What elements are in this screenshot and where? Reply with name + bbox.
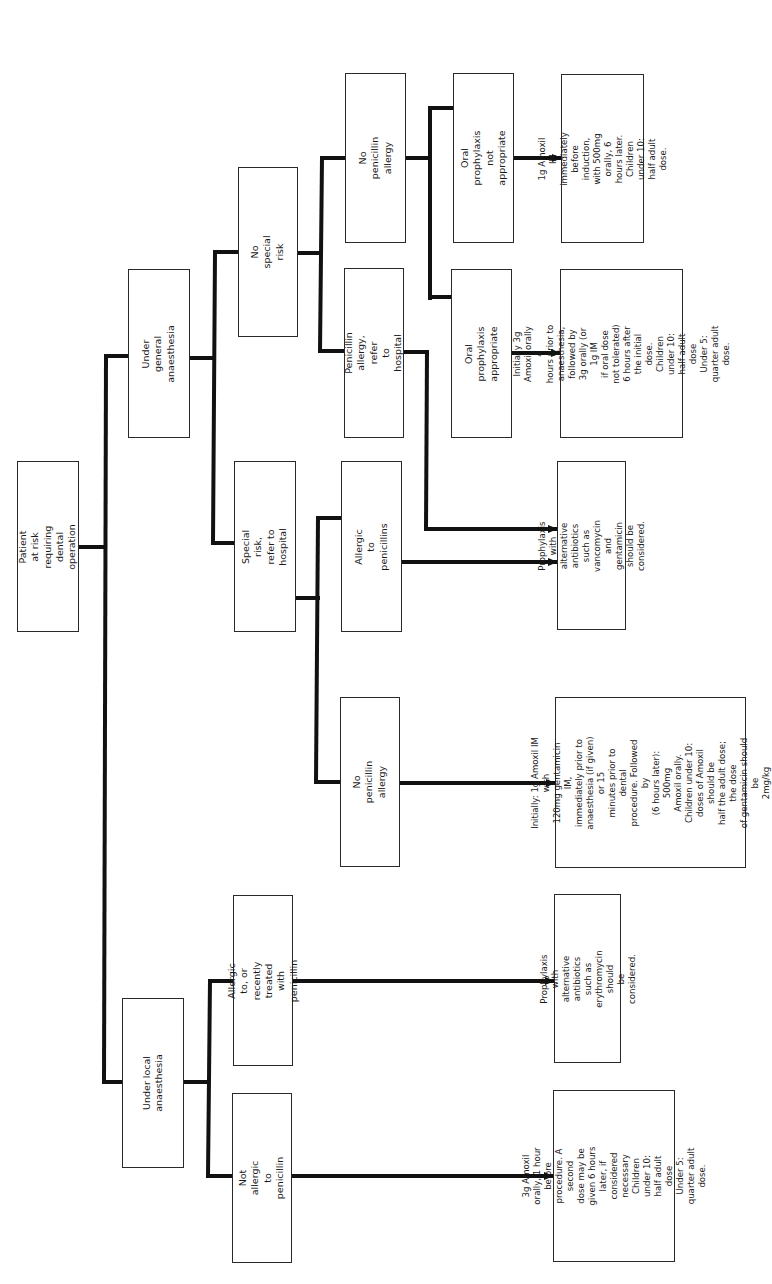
node-local-anaesthesia: Under local anaesthesia bbox=[122, 998, 184, 1168]
node-label: Allergic to, or recently treated with pe… bbox=[226, 959, 300, 1001]
outcome-text: 1g Amoxil IM immediately before inductio… bbox=[537, 132, 669, 186]
outcome-erythromycin: Prophylaxis with alternative antibiotics… bbox=[554, 894, 621, 1063]
node-label: Allergic to penicillins bbox=[353, 523, 390, 570]
node-label: Under local anaesthesia bbox=[141, 1054, 166, 1111]
node-no-special-risk: No special risk bbox=[238, 167, 298, 337]
node-local-not-allergic: Not allergic to penicillin bbox=[232, 1093, 292, 1263]
node-general-anaesthesia: Under general anaesthesia bbox=[128, 269, 190, 438]
outcome-gentamicin: Initially: 1g Amoxil IM with 120mg genta… bbox=[555, 697, 746, 868]
node-root: Patient at risk requiring dental operati… bbox=[17, 461, 79, 632]
outcome-vancomycin: Prophylaxis with alternative antibiotics… bbox=[557, 461, 626, 630]
node-label: Oral prophylaxis not appropriate bbox=[459, 130, 508, 185]
outcome-text: Prophylaxis with alternative antibiotics… bbox=[537, 520, 647, 572]
outcome-text: 3g Amoxil orally, 1 hour before procedur… bbox=[521, 1146, 708, 1206]
node-label: Oral prophylaxis appropriate bbox=[463, 326, 500, 381]
node-oral-appropriate: Oral prophylaxis appropriate bbox=[451, 269, 512, 438]
outcome-text: Initially: 1g Amoxil IM with 120mg genta… bbox=[530, 735, 772, 830]
node-label: Special risk, refer to hospital bbox=[240, 528, 289, 566]
node-label: No penicillin allergy bbox=[357, 137, 394, 179]
outcome-text: Prophylaxis with alternative antibiotics… bbox=[538, 950, 637, 1007]
node-label: Under general anaesthesia bbox=[140, 325, 177, 382]
node-special-risk: Special risk, refer to hospital bbox=[234, 461, 296, 632]
node-local-allergic: Allergic to, or recently treated with pe… bbox=[233, 895, 293, 1066]
node-special-no-penicillin-allergy: No penicillin allergy bbox=[340, 697, 400, 867]
node-label: Patient at risk requiring dental operati… bbox=[17, 524, 79, 570]
outcome-text: Initially 3g Amoxil orally 4 hours prior… bbox=[512, 323, 732, 384]
node-oral-not-appropriate: Oral prophylaxis not appropriate bbox=[453, 73, 514, 243]
outcome-im-amoxil: 1g Amoxil IM immediately before inductio… bbox=[561, 74, 644, 243]
node-label: Penicillin allergy, refer to hospital bbox=[343, 332, 405, 374]
outcome-local-amoxil: 3g Amoxil orally, 1 hour before procedur… bbox=[553, 1090, 675, 1262]
node-general-no-penicillin-allergy: No penicillin allergy bbox=[345, 73, 406, 243]
node-general-penicillin-allergy: Penicillin allergy, refer to hospital bbox=[344, 268, 404, 438]
node-label: No penicillin allergy bbox=[351, 761, 388, 803]
outcome-oral-amoxil: Initially 3g Amoxil orally 4 hours prior… bbox=[560, 269, 683, 438]
node-label: No special risk bbox=[249, 235, 286, 268]
node-special-allergic-penicillins: Allergic to penicillins bbox=[341, 461, 402, 632]
node-label: Not allergic to penicillin bbox=[237, 1157, 286, 1199]
